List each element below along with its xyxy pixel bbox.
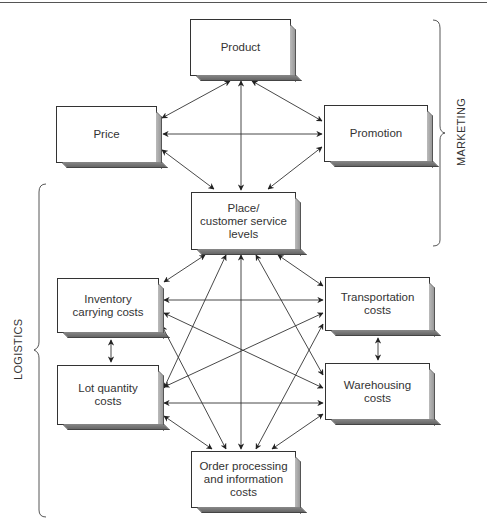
node-order-processing: Order processing and information costs	[191, 451, 296, 508]
node-label: Product	[221, 41, 261, 54]
group-label-marketing: MARKETING	[455, 97, 467, 167]
node-label: Lot quantity costs	[78, 382, 137, 408]
node-label: Place/ customer service levels	[200, 202, 287, 241]
node-label: Inventory carrying costs	[73, 293, 144, 319]
node-product: Product	[190, 19, 291, 76]
node-lot-quantity: Lot quantity costs	[57, 365, 159, 425]
marketing-brace	[433, 20, 445, 246]
node-transportation: Transportation costs	[325, 277, 430, 331]
node-inventory: Inventory carrying costs	[57, 278, 159, 333]
node-label: Warehousing costs	[344, 379, 411, 405]
group-label-logistics: LOGISTICS	[12, 320, 24, 380]
node-label: Order processing and information costs	[199, 460, 287, 499]
node-warehousing: Warehousing costs	[325, 363, 430, 420]
node-place: Place/ customer service levels	[191, 192, 296, 250]
node-label: Price	[93, 128, 119, 141]
node-promotion: Promotion	[324, 105, 428, 162]
node-price: Price	[56, 106, 157, 163]
logistics-brace	[34, 184, 46, 517]
node-label: Transportation costs	[341, 291, 415, 317]
node-label: Promotion	[350, 127, 402, 140]
